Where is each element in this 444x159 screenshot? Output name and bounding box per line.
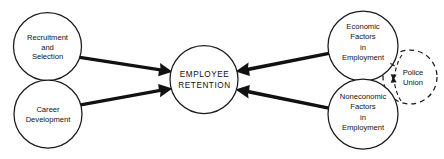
node-recruitment-selection[interactable]: Recruitment and Selection [14,13,82,81]
employee-retention-circle [170,46,238,114]
node-economic-factors[interactable]: Economic Factors in Employment [328,11,398,81]
noneconomic-factors-label-line-4: Employment [342,123,385,132]
economic-factors-label-line-4: Employment [342,53,385,62]
noneconomic-factors-label-line-2: Factors [350,102,376,111]
node-noneconomic-factors[interactable]: Noneconomic Factors in Employment [328,79,398,149]
economic-factors-label-line-3: in [360,43,366,52]
recruitment-selection-label-line-3: Selection [32,52,63,61]
noneconomic-factors-label-line-3: in [360,113,366,122]
noneconomic-factors-label-line-1: Noneconomic [340,92,387,101]
node-career-development[interactable]: Career Development [14,80,82,148]
arrow-recruitment-to-retention [78,56,173,77]
career-development-label-line-2: Development [26,115,72,124]
diagram-canvas: Recruitment and Selection Career Develop… [0,0,444,159]
arrow-economic-to-retention [236,51,334,76]
recruitment-selection-label-line-1: Recruitment [27,33,69,42]
arrow-career-to-retention [81,84,173,107]
union-to-noneconomic-arrowhead [391,76,397,82]
police-union-label-line-1: Police [403,68,424,77]
employee-retention-label-line-1: EMPLOYEE [180,70,229,79]
career-development-label-line-1: Career [36,105,60,114]
economic-factors-label-line-2: Factors [350,32,376,41]
economic-factors-label-line-1: Economic [346,22,380,31]
police-union-label-line-2: Union [403,78,423,87]
employee-retention-label-line-2: RETENTION [178,81,230,90]
recruitment-selection-label-line-2: and [41,43,54,52]
arrow-noneconomic-to-retention [236,85,335,111]
diagram-svg: Recruitment and Selection Career Develop… [0,0,444,159]
union-to-noneconomic-path [394,80,401,101]
node-employee-retention[interactable]: EMPLOYEE RETENTION [170,46,238,114]
